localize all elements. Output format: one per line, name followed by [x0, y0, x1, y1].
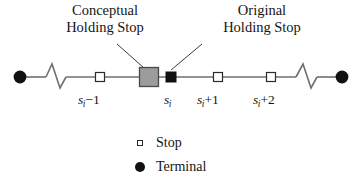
callout-original-line2: Holding Stop [196, 19, 328, 36]
route-break-left-icon [46, 64, 66, 88]
legend-item-terminal-label: Terminal [156, 159, 206, 175]
terminal-left-marker [14, 71, 27, 84]
open-square-icon [131, 140, 149, 146]
callout-conceptual-holding-stop: Conceptual Holding Stop [30, 2, 180, 36]
stop-label-operator: +2 [260, 92, 274, 107]
route-line [20, 64, 342, 88]
legend-item-stop: Stop [131, 135, 182, 151]
stop-label-s-i-plus-1: si+1 [197, 92, 219, 109]
callout-leader-lines [117, 44, 202, 70]
stop-marker-sp2 [267, 73, 276, 82]
legend-item-terminal: Terminal [131, 159, 206, 175]
stop-label-s-i-minus-1: si−1 [78, 92, 100, 109]
stop-label-operator: −1 [85, 92, 99, 107]
conceptual-holding-stop-marker [140, 68, 159, 87]
stop-marker-sm1 [96, 73, 105, 82]
transit-line-diagram: Conceptual Holding Stop Original Holding… [0, 0, 362, 192]
leader-line-original [171, 44, 202, 70]
callout-original-line1: Original [196, 2, 328, 19]
callout-conceptual-line2: Holding Stop [30, 19, 180, 36]
stop-label-s-i: si [164, 92, 171, 109]
stop-marker-sp1 [214, 73, 223, 82]
legend-item-stop-label: Stop [156, 135, 182, 151]
stop-label-operator: +1 [204, 92, 218, 107]
leader-line-conceptual [117, 44, 144, 68]
stop-label-subscript: i [169, 99, 172, 109]
callout-original-holding-stop: Original Holding Stop [196, 2, 328, 36]
route-break-right-icon [296, 64, 317, 88]
filled-circle-icon [131, 162, 149, 172]
original-holding-stop-marker [166, 72, 176, 82]
callout-conceptual-line1: Conceptual [30, 2, 180, 19]
terminal-right-marker [336, 71, 349, 84]
stop-label-s-i-plus-2: si+2 [253, 92, 275, 109]
